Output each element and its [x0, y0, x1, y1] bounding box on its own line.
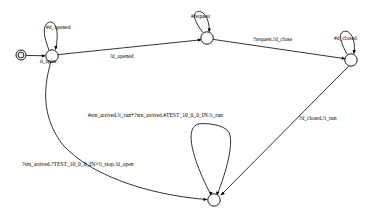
self-loop-label-stn-arrived: #stn_arrived.!t_run+?stn_arrived.#TEST_1…	[88, 112, 223, 118]
state-node-d-closed[interactable]	[345, 54, 357, 66]
self-loop-label-d-closed: #d_closed	[334, 35, 357, 41]
transition-label-open-to-request: !d_opened	[110, 53, 134, 59]
arrowhead-closed-to-run-icon	[220, 192, 225, 196]
transition-label-open-to-run: ?stn_arrived.?TEST_10_0_0_IN>!t_stop.!d_…	[22, 161, 134, 167]
transition-open-to-run	[46, 62, 206, 199]
initial-marker-inner-circle	[18, 52, 24, 58]
state-machine-diagram: d_open #d_opened #request #d_closed #stn…	[0, 0, 391, 221]
arrowhead-open-to-run-icon	[203, 198, 207, 201]
arrowhead-loop-d-opened-icon	[54, 46, 57, 50]
self-loop-label-d-opened: #d_opened	[46, 24, 71, 30]
transition-label-closed-to-run: ?d_closed.!t_run	[299, 115, 337, 121]
transition-request-to-closed	[213, 39, 344, 58]
arrowhead-loop-d-closed-icon	[353, 50, 356, 54]
initial-state-marker	[16, 50, 26, 60]
self-loop-label-request: #request	[191, 13, 210, 19]
state-node-run[interactable]	[208, 194, 220, 206]
initial-arrowhead-icon	[42, 54, 46, 57]
state-node-request[interactable]	[201, 32, 213, 44]
transition-label-request-to-closed: ?request.!d_close	[253, 36, 293, 42]
automaton-canvas: d_open #d_opened #request #d_closed #stn…	[0, 0, 391, 221]
state-label-d-open: d_open	[40, 58, 56, 64]
transition-closed-to-run	[222, 66, 349, 194]
self-loop-stn-arrived	[191, 124, 231, 195]
